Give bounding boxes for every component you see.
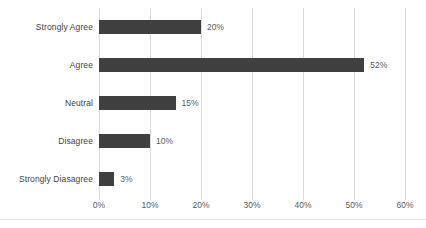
- category-label: Strongly Agree: [0, 22, 93, 32]
- category-label: Neutral: [0, 98, 93, 108]
- bar-group: 52%: [99, 46, 387, 84]
- category-label: Disagree: [0, 136, 93, 146]
- bar-value-label: 15%: [182, 98, 199, 108]
- x-tick-label: 50%: [345, 200, 362, 210]
- bar-value-label: 52%: [370, 60, 387, 70]
- category-label: Agree: [0, 60, 93, 70]
- bar-value-label: 20%: [207, 22, 224, 32]
- x-tick-label: 60%: [396, 200, 413, 210]
- category-label: Strongly Diasagree: [0, 174, 93, 184]
- bar-row: Neutral15%: [0, 84, 426, 122]
- bar-group: 15%: [99, 84, 199, 122]
- x-tick-label: 20%: [192, 200, 209, 210]
- bar: [99, 96, 176, 110]
- x-tick-label: 30%: [243, 200, 260, 210]
- bar: [99, 134, 150, 148]
- x-tick-label: 0%: [93, 200, 105, 210]
- bar-rows: Strongly Agree20%Agree52%Neutral15%Disag…: [0, 0, 426, 192]
- bar: [99, 20, 201, 34]
- bar-row: Disagree10%: [0, 122, 426, 160]
- bar-group: 20%: [99, 8, 224, 46]
- bar-value-label: 10%: [156, 136, 173, 146]
- bar: [99, 172, 114, 186]
- x-tick-label: 40%: [294, 200, 311, 210]
- bar-row: Agree52%: [0, 46, 426, 84]
- bottom-divider: [0, 219, 426, 220]
- bar: [99, 58, 364, 72]
- bar-value-label: 3%: [120, 174, 132, 184]
- bar-chart: Strongly Agree20%Agree52%Neutral15%Disag…: [0, 0, 426, 228]
- bar-row: Strongly Agree20%: [0, 8, 426, 46]
- bar-group: 3%: [99, 160, 133, 198]
- x-axis: 0%10%20%30%40%50%60%: [0, 200, 426, 216]
- bar-row: Strongly Diasagree3%: [0, 160, 426, 198]
- bar-group: 10%: [99, 122, 173, 160]
- x-tick-label: 10%: [141, 200, 158, 210]
